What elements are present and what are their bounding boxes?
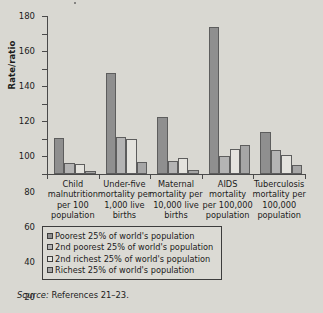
y-tick: 60 bbox=[42, 121, 47, 122]
source-label: Source: bbox=[17, 290, 49, 300]
legend-swatch-icon bbox=[47, 233, 53, 239]
bar bbox=[85, 171, 95, 175]
y-tick-label: 140 bbox=[9, 81, 35, 91]
bar bbox=[209, 27, 219, 174]
bar bbox=[219, 156, 229, 174]
bar bbox=[188, 170, 198, 174]
x-category-label: Tuberculosis mortality per 100,000 popul… bbox=[247, 179, 311, 221]
x-axis-line bbox=[47, 174, 305, 175]
legend-item: 2nd richest 25% of world's population bbox=[47, 253, 216, 265]
y-tick: 20 bbox=[42, 156, 47, 157]
legend-swatch-icon bbox=[47, 256, 53, 262]
bar bbox=[116, 137, 126, 174]
legend-swatch-icon bbox=[47, 267, 53, 273]
legend-item: Richest 25% of world's population bbox=[47, 265, 216, 277]
bar bbox=[281, 155, 291, 174]
y-tick: 120 bbox=[42, 69, 47, 70]
bar-group bbox=[209, 16, 251, 174]
legend-item-label: Richest 25% of world's population bbox=[55, 265, 194, 275]
source-note: Source: References 21–23. bbox=[17, 290, 129, 300]
y-tick-label: 180 bbox=[9, 11, 35, 21]
y-tick-label: 100 bbox=[9, 151, 35, 161]
y-tick-label: 120 bbox=[9, 116, 35, 126]
bar bbox=[126, 139, 136, 174]
bar bbox=[230, 149, 240, 174]
bar bbox=[292, 165, 302, 174]
bar bbox=[64, 163, 74, 174]
bar bbox=[75, 164, 85, 174]
bar bbox=[240, 145, 250, 174]
legend-item: Poorest 25% of world's population bbox=[47, 230, 216, 242]
source-text: References 21–23. bbox=[51, 290, 128, 300]
legend-item-label: 2nd richest 25% of world's population bbox=[55, 254, 210, 264]
y-tick: 160 bbox=[42, 34, 47, 35]
legend-rows: Poorest 25% of world's population2nd poo… bbox=[47, 230, 216, 276]
legend-item-label: Poorest 25% of world's population bbox=[55, 231, 195, 241]
y-tick: 180 bbox=[42, 16, 47, 17]
y-tick: 80 bbox=[42, 104, 47, 105]
bar bbox=[157, 117, 167, 174]
bar-group bbox=[260, 16, 302, 174]
bar bbox=[260, 132, 270, 174]
y-tick-label: 80 bbox=[9, 187, 35, 197]
legend-item-label: 2nd poorest 25% of world's population bbox=[55, 242, 213, 252]
bar bbox=[168, 161, 178, 174]
figure: Rate/ratio 020406080100120140160180 Chil… bbox=[0, 0, 323, 313]
y-tick: 100 bbox=[42, 86, 47, 87]
bar bbox=[178, 158, 188, 174]
legend-swatch-icon bbox=[47, 244, 53, 250]
bar bbox=[106, 73, 116, 174]
y-tick: 140 bbox=[42, 51, 47, 52]
y-tick-label: 160 bbox=[9, 46, 35, 56]
bar bbox=[271, 150, 281, 174]
y-axis-line bbox=[47, 16, 48, 175]
plot-area: 020406080100120140160180 bbox=[47, 16, 305, 175]
legend-item: 2nd poorest 25% of world's population bbox=[47, 242, 216, 254]
y-tick-label: 60 bbox=[9, 222, 35, 232]
y-tick-label: 40 bbox=[9, 257, 35, 267]
y-tick: 40 bbox=[42, 139, 47, 140]
bar bbox=[137, 162, 147, 174]
print-speck bbox=[74, 2, 76, 4]
bar-group bbox=[157, 16, 199, 174]
bar-group bbox=[106, 16, 148, 174]
bar-group bbox=[54, 16, 96, 174]
legend: Poorest 25% of world's population2nd poo… bbox=[42, 226, 222, 280]
bar bbox=[54, 138, 64, 174]
